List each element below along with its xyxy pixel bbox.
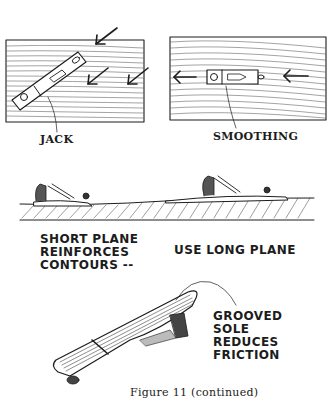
short-plane-icon	[34, 184, 92, 206]
grooved-sole-note: GROOVED SOLE REDUCES FRICTION	[213, 310, 282, 362]
jack-leader-line	[48, 97, 57, 132]
smoothing-plane-icon	[207, 70, 264, 84]
long-plane-note: USE LONG PLANE	[174, 244, 296, 257]
smoothing-label: SMOOTHING	[213, 130, 298, 143]
long-plane-icon	[166, 176, 288, 203]
short-plane-note: SHORT PLANE REINFORCES CONTOURS --	[40, 233, 138, 272]
figure-caption: Figure 11 (continued)	[130, 386, 258, 399]
jack-board-drawing	[6, 40, 144, 122]
jack-arrow-icons	[88, 28, 148, 84]
jack-label: JACK	[40, 133, 73, 146]
grooved-sole-plane-icon	[53, 291, 197, 384]
figure-11-illustration: JACK SMOOTHING SHORT PLANE REINFORCES CO…	[0, 0, 332, 419]
